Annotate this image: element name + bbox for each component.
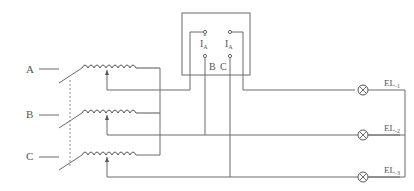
meter-box: IA * IA B C <box>182 13 355 177</box>
meter-box-outline <box>182 13 250 75</box>
lamp-1-label: EL-1 <box>384 78 400 89</box>
lamp-el1: EL-1 <box>358 78 405 95</box>
circuit-diagram: A B C IA * IA <box>0 0 414 191</box>
phase-b: B <box>26 108 400 135</box>
terminal-ia-star-mark: * <box>203 32 207 40</box>
terminal-ia-label: IA <box>225 38 233 50</box>
phase-a: A <box>26 63 190 90</box>
terminal-b <box>203 54 206 57</box>
coil-b <box>82 110 160 113</box>
phase-a-label: A <box>26 63 34 75</box>
lamp-3-label: EL-3 <box>384 165 400 176</box>
tap-c-wire <box>107 157 400 177</box>
phase-b-label: B <box>26 108 33 120</box>
tap-b-wire <box>107 115 400 135</box>
terminal-b-label: B <box>209 61 216 72</box>
tap-b-arrow-icon <box>105 115 109 120</box>
coil-a <box>82 65 160 68</box>
tap-c-arrow-icon <box>105 157 109 162</box>
tap-a-wire <box>107 70 190 90</box>
phase-c-label: C <box>26 150 33 162</box>
phase-c: C <box>26 150 400 177</box>
lamp-2-label: EL-2 <box>384 123 400 134</box>
coil-c <box>82 152 136 155</box>
lamp-el3: EL-3 <box>358 165 405 182</box>
terminal-c-label: C <box>220 61 227 72</box>
terminal-c <box>228 54 231 57</box>
tap-a-arrow-icon <box>105 70 109 75</box>
lamp-el2: EL-2 <box>358 123 405 140</box>
terminal-ia <box>228 30 231 33</box>
